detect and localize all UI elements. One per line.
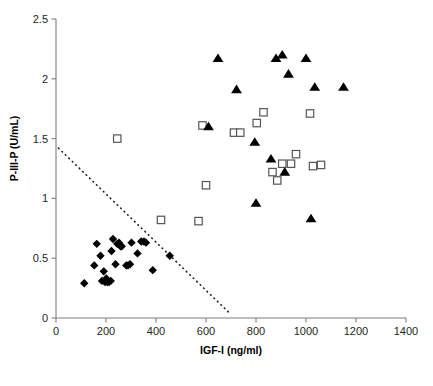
decision-threshold-line — [59, 148, 229, 312]
data-point-square — [114, 135, 121, 142]
series-diamonds — [80, 235, 174, 288]
data-point-triangle — [251, 198, 262, 207]
series-open-squares — [114, 109, 325, 225]
data-point-square — [287, 160, 294, 167]
x-tick-label: 1400 — [394, 325, 418, 337]
data-point-square — [202, 182, 209, 189]
x-tick-label: 1000 — [294, 325, 318, 337]
y-axis-title: P-III-P (U/mL) — [8, 116, 20, 182]
plot-canvas: 00.511.522.50200400600800100012001400 IG… — [0, 0, 433, 386]
data-point-triangle — [213, 53, 224, 62]
data-point-triangle — [309, 82, 320, 91]
data-point-square — [253, 119, 260, 126]
y-tick-label: 2 — [42, 73, 48, 85]
x-tick-label: 200 — [97, 325, 115, 337]
data-point-square — [195, 217, 202, 224]
data-point-triangle — [283, 69, 294, 78]
data-point-square — [279, 160, 286, 167]
scatter-plot-figure: 00.511.522.50200400600800100012001400 IG… — [0, 0, 433, 386]
data-point-square — [157, 216, 164, 223]
data-point-square — [274, 177, 281, 184]
data-point-triangle — [249, 137, 260, 146]
y-tick-label: 2.5 — [33, 13, 48, 25]
data-point-diamond — [107, 247, 115, 255]
data-point-diamond — [149, 266, 157, 274]
data-point-triangle — [338, 82, 349, 91]
y-tick-label: 1.5 — [33, 133, 48, 145]
data-point-square — [317, 161, 324, 168]
data-point-triangle — [306, 214, 317, 223]
x-tick-label: 0 — [53, 325, 59, 337]
y-tick-label: 0 — [42, 312, 48, 324]
data-point-triangle — [279, 167, 290, 176]
data-point-square — [292, 150, 299, 157]
x-tick-label: 800 — [247, 325, 265, 337]
data-point-diamond — [111, 260, 119, 268]
y-tick-label: 1 — [42, 192, 48, 204]
threshold-line-group — [59, 148, 229, 312]
data-point-diamond — [133, 249, 141, 257]
data-point-diamond — [93, 240, 101, 248]
data-points-group — [80, 50, 349, 288]
data-point-square — [306, 110, 313, 117]
data-point-triangle — [266, 154, 277, 163]
data-point-square — [269, 168, 276, 175]
data-point-diamond — [100, 267, 108, 275]
x-tick-label: 600 — [197, 325, 215, 337]
data-point-triangle — [277, 50, 288, 59]
data-point-triangle — [231, 85, 242, 94]
data-point-square — [260, 109, 267, 116]
axes: 00.511.522.50200400600800100012001400 — [33, 13, 419, 337]
y-tick-label: 0.5 — [33, 252, 48, 264]
data-point-diamond — [80, 279, 88, 287]
data-point-square — [309, 162, 316, 169]
data-point-square — [237, 129, 244, 136]
data-point-diamond — [96, 252, 104, 260]
series-filled-triangles — [203, 50, 349, 222]
x-tick-label: 1200 — [344, 325, 368, 337]
data-point-diamond — [90, 261, 98, 269]
data-point-diamond — [127, 238, 135, 246]
x-tick-label: 400 — [147, 325, 165, 337]
data-point-triangle — [301, 53, 312, 62]
x-axis-title: IGF-I (ng/ml) — [200, 344, 262, 356]
